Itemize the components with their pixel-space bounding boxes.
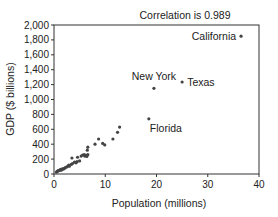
chart-title: Correlation is 0.989 bbox=[139, 9, 230, 21]
y-axis-title: GDP ($ billions) bbox=[4, 62, 16, 135]
x-tick-label: 40 bbox=[253, 179, 265, 190]
data-point bbox=[86, 146, 89, 149]
data-point bbox=[118, 125, 121, 128]
data-point bbox=[78, 159, 81, 162]
data-point-florida bbox=[147, 117, 150, 120]
y-tick-label: 2,000 bbox=[24, 20, 49, 31]
y-tick-label: 1,800 bbox=[24, 34, 49, 45]
y-tick-label: 0 bbox=[43, 169, 49, 180]
x-tick-label: 10 bbox=[100, 179, 112, 190]
data-point bbox=[116, 131, 119, 134]
data-point-texas bbox=[181, 80, 184, 83]
point-label: California bbox=[192, 30, 237, 42]
y-axis: 02004006008001,0001,2001,4001,6001,8002,… bbox=[24, 20, 54, 180]
labeled-points: CaliforniaTexasNew YorkFlorida bbox=[132, 30, 243, 134]
data-point bbox=[76, 156, 79, 159]
x-axis-title: Population (millions) bbox=[112, 197, 207, 209]
y-tick-label: 400 bbox=[32, 139, 49, 150]
y-tick-label: 1,200 bbox=[24, 79, 49, 90]
data-point bbox=[103, 143, 106, 146]
data-points bbox=[55, 125, 121, 173]
y-tick-label: 1,000 bbox=[24, 94, 49, 105]
x-axis: 010203040 bbox=[51, 174, 265, 190]
plot-area-frame bbox=[54, 25, 259, 174]
data-point bbox=[93, 143, 96, 146]
y-tick-label: 1,600 bbox=[24, 49, 49, 60]
data-point-california bbox=[239, 35, 242, 38]
y-tick-label: 800 bbox=[32, 109, 49, 120]
data-point bbox=[70, 156, 73, 159]
data-point bbox=[86, 153, 89, 156]
x-tick-label: 30 bbox=[202, 179, 214, 190]
y-tick-label: 600 bbox=[32, 124, 49, 135]
data-point bbox=[97, 137, 100, 140]
y-tick-label: 1,400 bbox=[24, 64, 49, 75]
point-label: Florida bbox=[150, 122, 182, 134]
data-point-new-york bbox=[152, 87, 155, 90]
x-tick-label: 20 bbox=[151, 179, 163, 190]
scatter-chart: Correlation is 0.989 02004006008001,0001… bbox=[0, 0, 278, 217]
y-tick-label: 200 bbox=[32, 154, 49, 165]
x-tick-label: 0 bbox=[51, 179, 57, 190]
point-label: Texas bbox=[187, 76, 214, 88]
data-point bbox=[86, 149, 89, 152]
data-point bbox=[111, 137, 114, 140]
point-label: New York bbox=[132, 70, 177, 82]
